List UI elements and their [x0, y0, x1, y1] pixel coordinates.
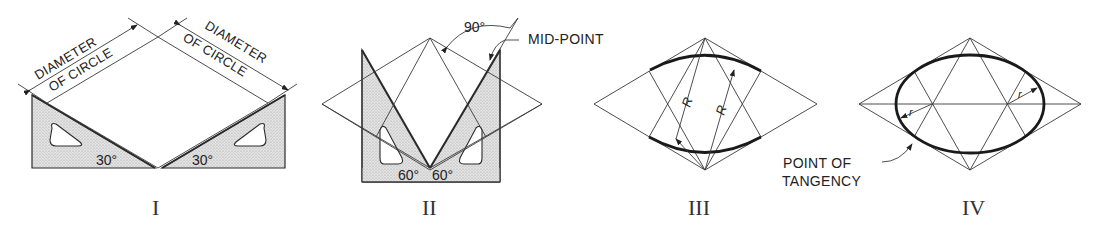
panel-numeral: III [688, 195, 710, 220]
ellipse-construction-diagram: DIAMETER OF CIRCLE DIAMETER OF CIRCLE 30… [0, 0, 1093, 243]
panel-4: r r POINT OF TANGENCY IV [782, 38, 1081, 220]
angle-label: 30° [192, 152, 213, 168]
angle-label: 60° [398, 167, 419, 183]
rhombus [594, 38, 817, 170]
upper-arc [650, 55, 761, 71]
tangency-label: TANGENCY [782, 173, 862, 189]
radius-label: R [713, 103, 730, 117]
panel-1: DIAMETER OF CIRCLE DIAMETER OF CIRCLE 30… [18, 18, 297, 220]
angle-label: 60° [432, 167, 453, 183]
radius-label: R [679, 95, 696, 109]
panel-3: R R III [594, 38, 817, 220]
panel-2: 90° MID-POINT 60° 60° II [322, 18, 604, 220]
tangency-label: POINT OF [783, 155, 851, 171]
panel-numeral: II [422, 195, 437, 220]
panel-numeral: IV [962, 195, 985, 220]
angle-label: 90° [464, 19, 485, 35]
radius-label: r [1018, 88, 1023, 100]
lower-arc [649, 137, 761, 153]
panel-numeral: I [152, 195, 159, 220]
midpoint-label: MID-POINT [528, 31, 604, 47]
angle-label: 30° [96, 152, 117, 168]
